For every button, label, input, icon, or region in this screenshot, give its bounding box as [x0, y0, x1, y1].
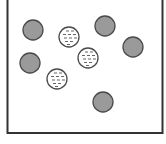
particle-diagram [0, 0, 166, 144]
patterned-particle [59, 27, 79, 47]
solid-particle [20, 53, 40, 73]
patterned-particle [47, 69, 67, 89]
solid-particle [93, 92, 113, 112]
particles-group [20, 16, 143, 112]
solid-particle [123, 37, 143, 57]
solid-particle [95, 16, 115, 36]
solid-particle [23, 20, 43, 40]
patterned-particle [78, 48, 98, 68]
